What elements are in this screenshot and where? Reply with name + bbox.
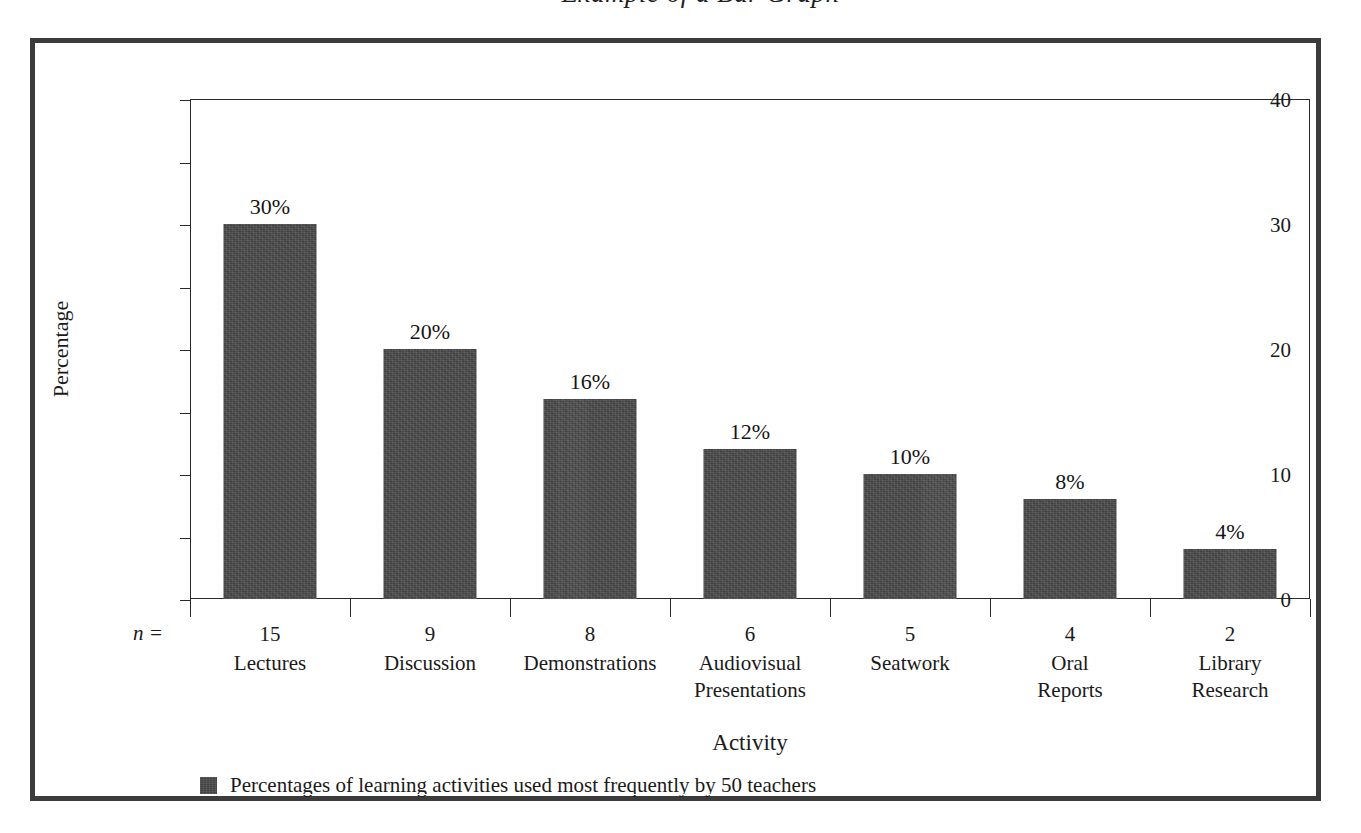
x-axis-category-label: 5Seatwork [830, 621, 990, 677]
bar-slot: 30% [190, 99, 350, 599]
bar-slot: 16% [510, 99, 670, 599]
x-axis-category-label: 9Discussion [350, 621, 510, 677]
x-axis-category-name-line: Discussion [350, 650, 510, 677]
bar-slot: 12% [670, 99, 830, 599]
legend-swatch-icon [200, 777, 217, 794]
x-axis-category-name-line: Presentations [670, 677, 830, 704]
bar [704, 449, 797, 599]
x-axis-n-value: 6 [670, 621, 830, 648]
bar-value-label: 30% [250, 194, 290, 220]
figure-outer-border: Percentage 010203040 30%20%16%12%10%8%4%… [30, 38, 1321, 801]
bar-value-label: 16% [570, 369, 610, 395]
x-axis-tick [1150, 599, 1151, 617]
bar [1184, 549, 1277, 599]
x-axis-category-label: 15Lectures [190, 621, 350, 677]
x-axis-category-label: 4OralReports [990, 621, 1150, 704]
bar-value-label: 8% [1055, 469, 1084, 495]
bar [544, 399, 637, 599]
x-axis-n-value: 9 [350, 621, 510, 648]
x-axis-category-name-line: Audiovisual [670, 650, 830, 677]
bar-slot: 4% [1150, 99, 1310, 599]
bar-chart: Percentage 010203040 30%20%16%12%10%8%4%… [35, 43, 1326, 806]
bar-slot: 20% [350, 99, 510, 599]
x-axis-category-labels: 15Lectures9Discussion8Demonstrations6Aud… [190, 621, 1310, 731]
bar-value-label: 12% [730, 419, 770, 445]
bar-slot: 8% [990, 99, 1150, 599]
x-axis-tick [830, 599, 831, 617]
x-axis-end-tick [190, 599, 191, 617]
x-axis-category-name-line: Demonstrations [510, 650, 670, 677]
x-axis-category-name-line: Library [1150, 650, 1310, 677]
x-axis-tick [670, 599, 671, 617]
bar-slot: 10% [830, 99, 990, 599]
bar [864, 474, 957, 599]
x-axis-category-name-line: Lectures [190, 650, 350, 677]
x-axis-title: Activity [190, 730, 1310, 756]
x-axis-category-name-line: Seatwork [830, 650, 990, 677]
x-axis-category-label: 2LibraryResearch [1150, 621, 1310, 704]
bar-value-label: 4% [1215, 519, 1244, 545]
x-axis-category-name-line: Reports [990, 677, 1150, 704]
x-axis-category-label: 6AudiovisualPresentations [670, 621, 830, 704]
x-axis-category-name-line: Oral [990, 650, 1150, 677]
bar [224, 224, 317, 599]
bars-layer: 30%20%16%12%10%8%4% [190, 99, 1310, 599]
x-axis-n-value: 15 [190, 621, 350, 648]
y-axis-title: Percentage [48, 301, 74, 398]
x-axis-tick [990, 599, 991, 617]
bar [1024, 499, 1117, 599]
x-axis-end-tick [1310, 599, 1311, 617]
bar-value-label: 20% [410, 319, 450, 345]
x-axis-tick [350, 599, 351, 617]
x-axis-tick [510, 599, 511, 617]
x-axis-n-value: 5 [830, 621, 990, 648]
x-axis-category-label: 8Demonstrations [510, 621, 670, 677]
x-axis-n-value: 8 [510, 621, 670, 648]
chart-legend: Percentages of learning activities used … [200, 773, 816, 798]
x-axis-ticks [190, 599, 1310, 619]
bar [384, 349, 477, 599]
figure-title: Example of a Bar Graph [0, 0, 1361, 12]
x-axis-category-name-line: Research [1150, 677, 1310, 704]
bar-value-label: 10% [890, 444, 930, 470]
n-equals-marker: n = [133, 621, 163, 646]
x-axis-n-value: 4 [990, 621, 1150, 648]
legend-label: Percentages of learning activities used … [230, 773, 816, 798]
x-axis-n-value: 2 [1150, 621, 1310, 648]
